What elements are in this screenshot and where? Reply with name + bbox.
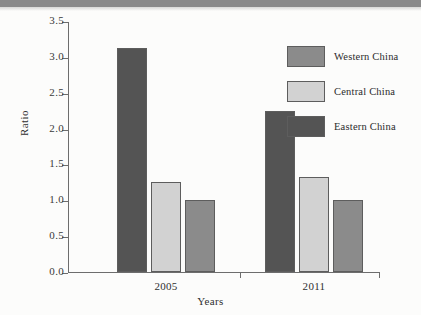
legend-item: Central China <box>287 74 417 109</box>
y-tick: 3.5 <box>68 22 69 23</box>
y-tick: 1.0 <box>68 201 69 202</box>
bar <box>299 177 329 272</box>
legend-item: Eastern China <box>287 109 417 144</box>
y-axis-title: Ratio <box>18 110 30 136</box>
y-tick: 2.5 <box>68 94 69 95</box>
bar <box>151 182 181 272</box>
x-tick-mark <box>379 273 380 278</box>
legend-label: Eastern China <box>334 121 396 132</box>
x-group-label: 2011 <box>303 280 326 292</box>
y-tick: 3.0 <box>68 58 69 59</box>
y-axis-line <box>68 22 69 273</box>
x-group-label: 2005 <box>154 280 177 292</box>
legend-swatch <box>287 81 325 102</box>
y-tick: 1.5 <box>68 165 69 166</box>
y-tick-label: 0.0 <box>49 265 64 277</box>
x-axis-line <box>68 272 380 273</box>
bar <box>117 48 147 272</box>
legend-label: Central China <box>334 86 395 97</box>
y-tick: 0.0 <box>68 273 69 274</box>
x-axis-title: Years <box>0 295 421 307</box>
chart-page: Ratio Years 0.00.51.01.52.02.53.03.5 200… <box>0 0 421 315</box>
legend-label: Western China <box>334 51 398 62</box>
x-tick-mark <box>240 273 241 278</box>
bar <box>333 200 363 272</box>
y-tick-label: 3.0 <box>49 50 64 62</box>
chart-legend: Western ChinaCentral ChinaEastern China <box>287 39 417 144</box>
y-tick-label: 3.5 <box>49 14 64 26</box>
legend-swatch <box>287 46 325 67</box>
y-tick: 0.5 <box>68 237 69 238</box>
bar <box>185 200 215 272</box>
scan-artifact-band <box>0 0 421 7</box>
y-tick: 2.0 <box>68 130 69 131</box>
legend-item: Western China <box>287 39 417 74</box>
y-tick-label: 2.0 <box>49 122 64 134</box>
y-tick-label: 0.5 <box>49 229 64 241</box>
y-tick-label: 2.5 <box>49 86 64 98</box>
bar-chart: Ratio Years 0.00.51.01.52.02.53.03.5 200… <box>0 11 421 315</box>
legend-swatch <box>287 116 325 137</box>
y-tick-label: 1.0 <box>49 193 64 205</box>
y-tick-label: 1.5 <box>49 157 64 169</box>
